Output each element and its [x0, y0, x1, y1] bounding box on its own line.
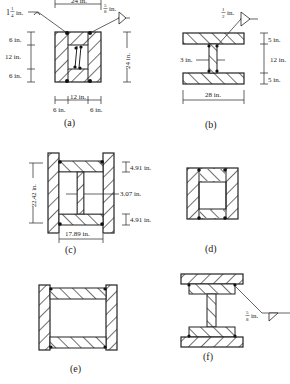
dim-c-width: 17.89 in. — [65, 230, 90, 238]
fillet-weld-icon — [241, 12, 250, 26]
weld-f-den: 8 — [246, 317, 249, 322]
fillet-weld-icon — [269, 313, 278, 321]
caption-e: (e) — [70, 363, 81, 375]
dim-c-height: 22.42 in. — [30, 184, 37, 207]
panel-b: 1 2 in. 3 in. 5 in. 12 in. 5 in. 28 in. … — [180, 7, 286, 131]
panel-f: 5 8 in. (f) — [181, 274, 290, 363]
dim-b-width: 28 in. — [205, 91, 221, 99]
caption-d: (d) — [205, 243, 217, 255]
weld-a-left-num: 1 — [11, 6, 14, 11]
dim-b-web-height: 12 in. — [270, 56, 286, 64]
caption-b: (b) — [205, 119, 217, 131]
weld-a-left-whole: 1 — [6, 8, 10, 17]
dim-c-web: 3.07 in. — [120, 190, 141, 198]
weld-a-left-den: 4 — [11, 13, 14, 18]
weld-b-num: 1 — [222, 7, 225, 12]
weld-b-unit: in. — [227, 9, 234, 17]
weld-a-left-unit: in. — [16, 9, 23, 17]
weld-f-num: 5 — [246, 310, 249, 315]
caption-c: (c) — [65, 244, 76, 256]
dim-a-top-width: 24 in. — [71, 0, 87, 5]
weld-a-right-unit: in. — [109, 5, 116, 13]
weld-b-den: 2 — [222, 14, 225, 19]
dim-a-bottom-right: 6 in. — [90, 106, 103, 114]
weld-f-unit: in. — [251, 312, 258, 320]
caption-a: (a) — [64, 117, 75, 129]
dim-a-left-bot: 6 in. — [9, 72, 22, 80]
panel-d: (d) — [187, 168, 238, 255]
dim-a-bottom-left: 6 in. — [53, 106, 66, 114]
dim-b-web-thickness: 3 in. — [180, 56, 193, 64]
figure-canvas: 24 in. 1 1 4 in. 5 8 in. 6 in. 12 in. 6 … — [0, 0, 290, 384]
dim-a-left-mid: 12 in. — [5, 53, 21, 61]
dim-b-bot-flange: 5 in. — [268, 76, 281, 84]
panel-c: 22.42 in. 4.91 in. 3.07 in. 4.91 in. 17.… — [29, 153, 151, 256]
dim-c-bot-flange: 4.91 in. — [130, 216, 151, 224]
panel-e: (e) — [39, 285, 117, 375]
fillet-weld-icon — [119, 12, 126, 24]
dim-c-top-flange: 4.91 in. — [130, 164, 151, 172]
dim-a-bottom-mid: 12 in. — [70, 93, 86, 101]
weld-a-right-num: 5 — [104, 3, 107, 8]
panel-a: 24 in. 1 1 4 in. 5 8 in. 6 in. 12 in. 6 … — [5, 0, 132, 129]
dim-a-right-height: 24 in. — [124, 53, 132, 69]
dim-a-left-top: 6 in. — [9, 36, 22, 44]
caption-f: (f) — [203, 351, 213, 363]
weld-a-right-den: 8 — [104, 9, 107, 14]
dim-b-top-flange: 5 in. — [268, 36, 281, 44]
